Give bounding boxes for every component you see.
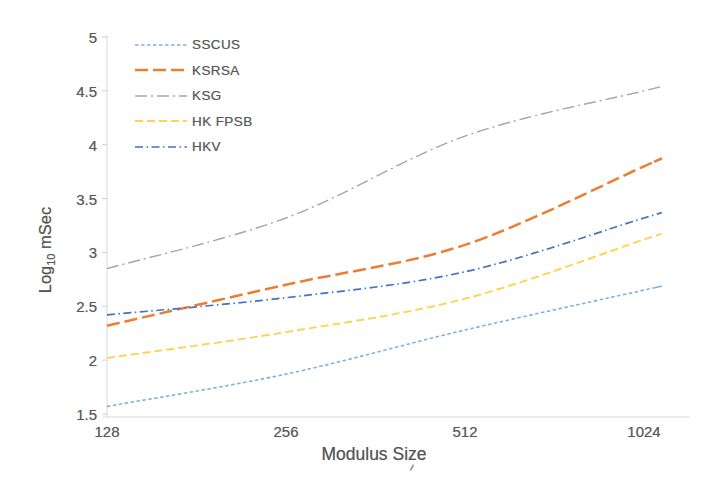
y-tick-label: 4.5 xyxy=(76,82,97,99)
legend-item-hkv: HKV xyxy=(135,134,253,160)
x-tick-label: 256 xyxy=(273,423,298,440)
legend-label: HK FPSB xyxy=(192,114,253,129)
x-axis-title: Modulus Size xyxy=(321,444,426,465)
y-tick-label: 2 xyxy=(89,352,97,369)
legend-label: HKV xyxy=(192,139,221,154)
series-line-hk-fpsb xyxy=(107,234,661,358)
chart-canvas xyxy=(0,0,701,486)
y-axis-title-prefix: Log xyxy=(36,266,54,294)
y-tick-label: 3 xyxy=(89,244,97,261)
legend-item-ksg: KSG xyxy=(135,83,253,109)
line-chart-figure: 1.522.533.544.55 1282565121024 Log10 mSe… xyxy=(0,0,701,486)
legend-swatch-line xyxy=(135,92,187,100)
legend: SSCUSKSRSAKSGHK FPSBHKV xyxy=(135,32,253,160)
y-axis-title: Log10 mSec xyxy=(36,170,56,330)
legend-item-sscus: SSCUS xyxy=(135,32,253,58)
legend-label: KSG xyxy=(192,88,222,103)
y-tick-label: 3.5 xyxy=(76,190,97,207)
legend-item-hk-fpsb: HK FPSB xyxy=(135,109,253,135)
y-tick-label: 2.5 xyxy=(76,298,97,315)
series-line-ksrsa xyxy=(107,159,661,326)
series-line-hkv xyxy=(107,213,661,315)
x-tick-label: 128 xyxy=(94,423,119,440)
legend-swatch-line xyxy=(135,117,187,125)
y-tick-label: 4 xyxy=(89,136,97,153)
legend-item-ksrsa: KSRSA xyxy=(135,58,253,84)
y-axis-title-subscript: 10 xyxy=(45,254,57,266)
legend-label: KSRSA xyxy=(192,63,240,78)
x-tick-label: 512 xyxy=(452,423,477,440)
x-tick-label: 1024 xyxy=(627,423,660,440)
y-tick-label: 5 xyxy=(89,29,97,46)
legend-swatch-line xyxy=(135,66,187,74)
legend-label: SSCUS xyxy=(192,37,241,52)
y-axis-title-suffix: mSec xyxy=(36,207,54,254)
legend-swatch-line xyxy=(135,41,187,49)
y-tick-label: 1.5 xyxy=(76,406,97,423)
legend-swatch-line xyxy=(135,143,187,151)
